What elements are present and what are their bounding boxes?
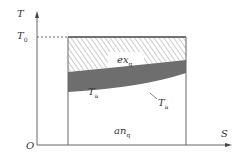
origin-label: O xyxy=(26,141,34,151)
curve-pointer xyxy=(150,93,157,99)
y-axis-label: T xyxy=(17,9,24,19)
x-axis-label: S xyxy=(221,129,228,139)
anergy-label: anq xyxy=(114,126,130,138)
y-axis-arrow-icon xyxy=(35,11,39,18)
exergy-label: exq xyxy=(117,55,132,67)
band-label: Ta xyxy=(88,87,98,99)
curve-label: Ta xyxy=(158,98,168,110)
x-axis-arrow-icon xyxy=(225,143,232,147)
t0-label: T0 xyxy=(17,31,28,43)
